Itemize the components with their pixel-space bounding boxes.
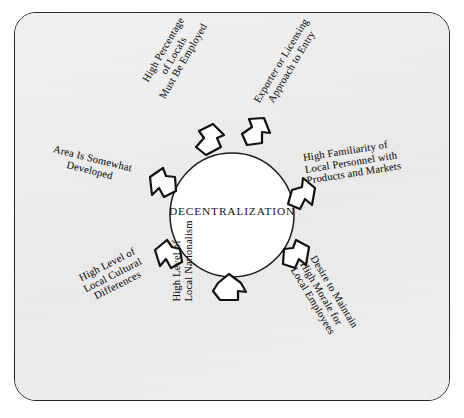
arrow-high-nationalism xyxy=(213,274,246,300)
arrow-exporter-licensing xyxy=(242,118,270,145)
label-line: Local Nationalism xyxy=(183,220,195,301)
figure-page: DECENTRALIZATION High Percentage of Loca… xyxy=(0,0,464,418)
label-line: High Level of xyxy=(171,220,183,301)
label-high-nationalism: High Level of Local Nationalism xyxy=(171,220,194,301)
arrow-area-developed xyxy=(150,168,176,197)
center-label: DECENTRALIZATION xyxy=(0,205,464,217)
arrow-high-percentage-locals xyxy=(196,124,224,155)
